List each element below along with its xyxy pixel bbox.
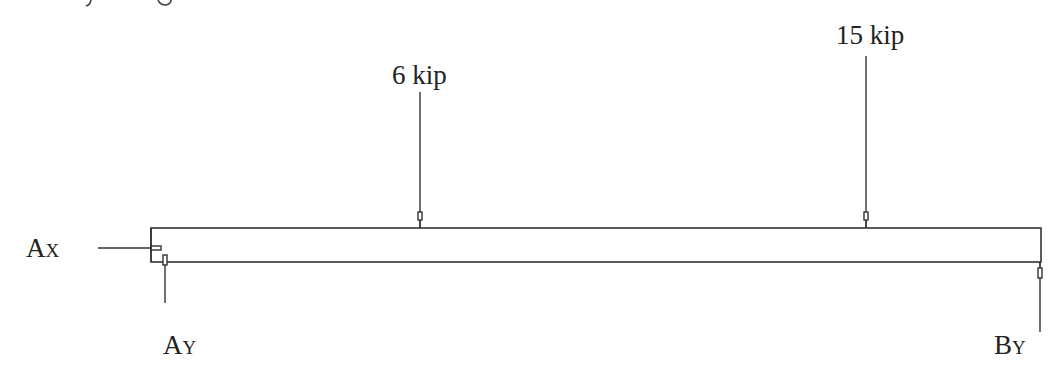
load-label-15kip: 15 kip: [836, 22, 904, 49]
reaction-ax-main: A: [26, 233, 46, 263]
reaction-arrow-ay: [163, 255, 167, 303]
reaction-label-ay: AY: [163, 332, 196, 359]
load-label-6kip: 6 kip: [392, 62, 447, 89]
reaction-by-main: B: [994, 330, 1012, 360]
reaction-label-ax: AX: [26, 235, 59, 262]
reaction-ay-main: A: [163, 330, 183, 360]
reaction-label-by: BY: [994, 332, 1026, 359]
reaction-arrow-ax: [98, 228, 161, 262]
clipped-heading-fragment: [86, 0, 171, 6]
reaction-ay-sub: Y: [183, 337, 197, 358]
diagram-graphics: [0, 0, 1064, 374]
load-arrow-6kip: [418, 92, 422, 228]
reaction-ax-sub: X: [46, 240, 60, 261]
reaction-arrow-by: [1038, 262, 1042, 332]
load-arrow-15kip: [864, 56, 868, 228]
beam: [151, 228, 1041, 262]
free-body-diagram: 6 kip 15 kip AX AY BY: [0, 0, 1064, 374]
reaction-by-sub: Y: [1012, 337, 1026, 358]
